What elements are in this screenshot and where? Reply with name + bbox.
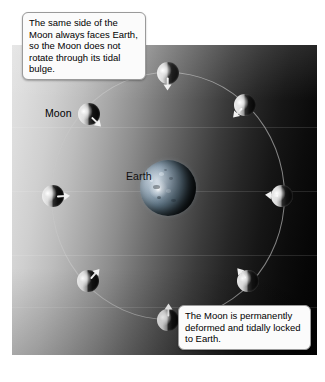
- bulge-head: [265, 191, 272, 199]
- earth-terminator: [140, 160, 196, 216]
- top-left-callout: The same side of the Moon always faces E…: [22, 12, 146, 80]
- earth-sphere: [140, 160, 196, 216]
- moon-bottom-tidal-bulge-arrow: [168, 320, 169, 321]
- moon-right-tidal-bulge-arrow: [281, 196, 282, 197]
- bulge-head: [164, 304, 172, 310]
- earth-label: Earth: [126, 171, 152, 182]
- bulge-head: [164, 84, 172, 90]
- figure-canvas: MoonEarth The same side of the Moon alwa…: [0, 0, 325, 382]
- bottom-right-callout: The Moon is permanently deformed and tid…: [178, 305, 311, 350]
- moon-label: Moon: [45, 108, 72, 119]
- bulge-head: [64, 191, 71, 199]
- moon-top-tidal-bulge-arrow: [168, 74, 169, 75]
- moon-left-tidal-bulge-arrow: [53, 196, 54, 197]
